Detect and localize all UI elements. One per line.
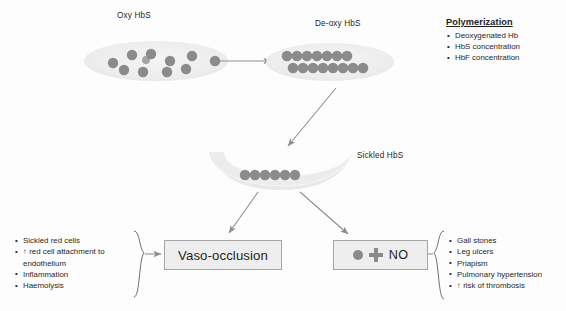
diagram-canvas: Oxy HbS De-oxy HbS Sickled HbS Polymeriz… <box>0 0 566 311</box>
list-item: Gall stones <box>448 235 566 246</box>
list-item: Sickled red cells <box>14 235 126 246</box>
sickled-hbs-dots <box>240 170 300 180</box>
polymerization-factor-list: Deoxygenated Hb HbS concentration HbF co… <box>446 30 564 64</box>
arrow-deoxy-to-sickled <box>288 88 336 146</box>
list-item: Priapism <box>448 258 566 269</box>
deoxy-hbs-label: De-oxy HbS <box>315 19 361 28</box>
nitric-oxide-box: NO <box>333 240 428 270</box>
vaso-occlusion-label: Vaso-occlusion <box>178 248 268 263</box>
nitric-oxide-consequences-list: Gall stones Leg ulcers Priapism Pulmonar… <box>448 235 566 291</box>
polymerization-title: Polymerization <box>446 17 564 27</box>
oxy-hbs-dots <box>108 49 220 77</box>
list-item: Inflammation <box>14 269 126 280</box>
list-item: HbF concentration <box>446 52 564 63</box>
list-item: Deoxygenated Hb <box>446 30 564 41</box>
nitric-oxide-label: NO <box>389 248 408 262</box>
right-brace <box>434 231 444 299</box>
plus-icon <box>369 248 383 262</box>
vaso-occlusion-causes-list: Sickled red cells ↑ red cell attachment … <box>14 235 126 291</box>
list-item: Pulmonary hypertension <box>448 269 566 280</box>
deoxy-hbs-dots <box>282 51 369 74</box>
arrow-sickled-to-no <box>300 192 348 234</box>
list-item: ↑ red cell attachment to endothelium <box>14 246 126 269</box>
oxy-hbs-cell <box>84 41 228 81</box>
left-brace <box>134 231 144 297</box>
list-item: HbS concentration <box>446 41 564 52</box>
sickled-hbs-label: Sickled HbS <box>357 151 403 160</box>
list-item: ↑ risk of thrombosis <box>448 280 566 291</box>
arrow-sickled-to-vaso <box>229 192 258 233</box>
vaso-occlusion-box: Vaso-occlusion <box>164 240 282 270</box>
list-item: Haemolysis <box>14 280 126 291</box>
deoxy-hbs-cell <box>266 43 394 81</box>
sickled-hbs-cell <box>209 151 353 190</box>
hb-dot-icon <box>353 250 363 260</box>
polymerization-panel: Polymerization Deoxygenated Hb HbS conce… <box>446 17 564 64</box>
list-item: Leg ulcers <box>448 246 566 257</box>
oxy-hbs-label: Oxy HbS <box>117 11 151 20</box>
